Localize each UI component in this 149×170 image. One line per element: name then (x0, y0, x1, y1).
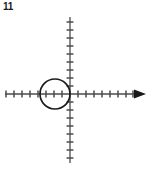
x-axis-arrowhead (134, 90, 146, 99)
figure-container: 11 (0, 0, 149, 170)
x-axis-group (5, 90, 146, 99)
coordinate-plane-graph (0, 0, 149, 170)
